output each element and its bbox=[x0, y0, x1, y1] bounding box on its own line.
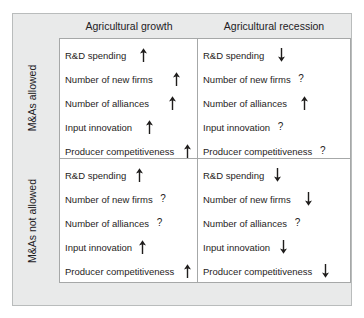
figure-canvas: Agricultural growth Agricultural recessi… bbox=[0, 0, 364, 318]
quadrant-allowed-recession: R&D spendingNumber of new firms?Number o… bbox=[198, 39, 350, 159]
matrix-item: Number of new firms bbox=[203, 187, 350, 211]
quadrant-item-list: R&D spendingNumber of new firms?Number o… bbox=[60, 159, 197, 282]
matrix-item: Number of new firms? bbox=[203, 67, 350, 91]
up-arrow-icon bbox=[167, 95, 178, 111]
matrix-item-label: R&D spending bbox=[65, 170, 126, 181]
quadrant-item-list: R&D spendingNumber of new firms?Number o… bbox=[198, 39, 350, 158]
matrix-item-label: Producer competitiveness bbox=[203, 266, 312, 277]
matrix-item-label: Input innovation bbox=[65, 242, 132, 253]
up-arrow-icon bbox=[182, 143, 193, 159]
matrix-item-label: Number of alliances bbox=[65, 98, 149, 109]
matrix-item-label: Number of new firms bbox=[65, 194, 153, 205]
matrix-item: Number of alliances? bbox=[65, 211, 197, 235]
quadrant-not-allowed-growth: R&D spendingNumber of new firms?Number o… bbox=[60, 159, 198, 282]
matrix-item: Producer competitiveness bbox=[203, 259, 350, 282]
quadrant-item-list: R&D spendingNumber of new firmsNumber of… bbox=[198, 159, 350, 282]
matrix-item-label: R&D spending bbox=[203, 170, 264, 181]
matrix-item: Number of alliances bbox=[65, 91, 197, 115]
down-arrow-icon bbox=[276, 47, 287, 63]
matrix-item: Number of alliances bbox=[203, 91, 350, 115]
matrix-item-label: Number of new firms bbox=[203, 74, 291, 85]
matrix-item-label: R&D spending bbox=[203, 50, 264, 61]
up-arrow-icon bbox=[138, 47, 149, 63]
matrix-item-label: Number of new firms bbox=[203, 194, 291, 205]
up-arrow-icon bbox=[171, 71, 182, 87]
matrix-item: Producer competitiveness? bbox=[203, 139, 350, 159]
matrix-item-label: R&D spending bbox=[65, 50, 126, 61]
matrix-item-label: Input innovation bbox=[203, 242, 270, 253]
question-mark-icon: ? bbox=[317, 143, 328, 159]
down-arrow-icon bbox=[278, 239, 289, 255]
matrix-item: Input innovation? bbox=[203, 115, 350, 139]
quadrant-not-allowed-recession: R&D spendingNumber of new firmsNumber of… bbox=[198, 159, 350, 282]
question-mark-icon: ? bbox=[296, 71, 307, 87]
matrix-item-label: Input innovation bbox=[65, 122, 132, 133]
quadrant-allowed-growth: R&D spendingNumber of new firmsNumber of… bbox=[60, 39, 198, 159]
matrix-item: R&D spending bbox=[65, 43, 197, 67]
matrix-item-label: Producer competitiveness bbox=[65, 266, 174, 277]
matrix-item: Number of new firms bbox=[65, 67, 197, 91]
question-mark-icon: ? bbox=[154, 215, 165, 231]
matrix-item-label: Number of alliances bbox=[203, 98, 287, 109]
matrix-item: Producer competitiveness bbox=[65, 139, 197, 159]
up-arrow-icon bbox=[144, 119, 155, 135]
matrix-item: Number of new firms? bbox=[65, 187, 197, 211]
column-header-agricultural-growth: Agricultural growth bbox=[60, 18, 198, 34]
up-arrow-icon bbox=[182, 263, 193, 279]
matrix-item: Input innovation bbox=[203, 235, 350, 259]
matrix-item: Producer competitiveness bbox=[65, 259, 197, 282]
matrix-item-label: Producer competitiveness bbox=[203, 146, 312, 157]
matrix-item-label: Input innovation bbox=[203, 122, 270, 133]
matrix-item: R&D spending bbox=[203, 163, 350, 187]
matrix-item: R&D spending bbox=[203, 43, 350, 67]
row-label-mas-not-allowed: M&As not allowed bbox=[24, 161, 40, 281]
quadrant-item-list: R&D spendingNumber of new firmsNumber of… bbox=[60, 39, 197, 158]
matrix-item-label: Number of alliances bbox=[65, 218, 149, 229]
down-arrow-icon bbox=[272, 167, 283, 183]
matrix-grid: R&D spendingNumber of new firmsNumber of… bbox=[59, 38, 351, 283]
matrix-item: Input innovation bbox=[65, 115, 197, 139]
down-arrow-icon bbox=[303, 191, 314, 207]
question-mark-icon: ? bbox=[158, 191, 169, 207]
column-header-agricultural-recession: Agricultural recession bbox=[198, 18, 350, 34]
question-mark-icon: ? bbox=[275, 119, 286, 135]
matrix-item-label: Producer competitiveness bbox=[65, 146, 174, 157]
matrix-item-label: Number of new firms bbox=[65, 74, 153, 85]
question-mark-icon: ? bbox=[292, 215, 303, 231]
matrix-item: Input innovation bbox=[65, 235, 197, 259]
down-arrow-icon bbox=[320, 263, 331, 279]
up-arrow-icon bbox=[299, 95, 310, 111]
matrix-item-label: Number of alliances bbox=[203, 218, 287, 229]
up-arrow-icon bbox=[134, 167, 145, 183]
matrix-item: R&D spending bbox=[65, 163, 197, 187]
up-arrow-icon bbox=[137, 239, 148, 255]
matrix-item: Number of alliances? bbox=[203, 211, 350, 235]
row-label-mas-allowed: M&As allowed bbox=[24, 38, 40, 158]
